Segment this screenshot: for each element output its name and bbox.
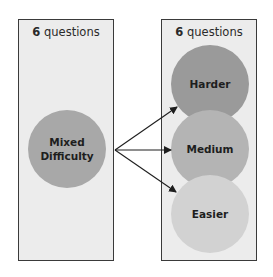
arrow-to-harder [115, 107, 177, 150]
arrow-to-easier [115, 150, 176, 192]
arrows [0, 0, 273, 277]
